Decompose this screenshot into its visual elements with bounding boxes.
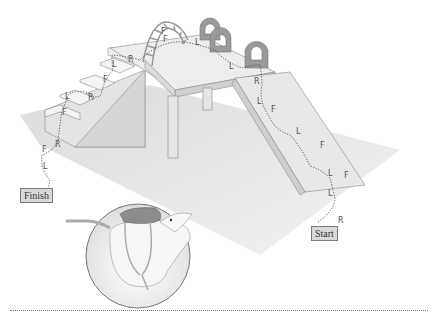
svg-text:L: L (328, 189, 333, 198)
svg-text:F: F (163, 35, 168, 44)
dotted-divider (10, 310, 428, 311)
svg-text:R: R (128, 55, 134, 64)
svg-text:L: L (257, 97, 262, 106)
svg-text:F: F (271, 105, 276, 114)
rat-inset (66, 204, 192, 308)
svg-text:L: L (229, 62, 234, 71)
svg-text:R: R (88, 93, 94, 102)
svg-text:R: R (338, 216, 344, 225)
svg-text:R: R (254, 77, 260, 86)
svg-text:L: L (195, 38, 200, 47)
svg-text:F: F (62, 108, 67, 117)
svg-text:F: F (344, 171, 349, 180)
svg-text:L: L (328, 169, 333, 178)
svg-text:F: F (103, 75, 108, 84)
svg-text:L: L (296, 127, 301, 136)
obstacle-course-illustration: R L F L F L F L R L L F F R L R F L F R … (0, 0, 436, 321)
start-label: Start (311, 226, 338, 241)
svg-text:R: R (55, 140, 61, 149)
svg-text:L: L (65, 92, 70, 101)
svg-text:F: F (320, 141, 325, 150)
finish-label: Finish (20, 188, 53, 203)
svg-text:L: L (112, 60, 117, 69)
svg-text:F: F (42, 145, 47, 154)
svg-text:L: L (43, 162, 48, 171)
